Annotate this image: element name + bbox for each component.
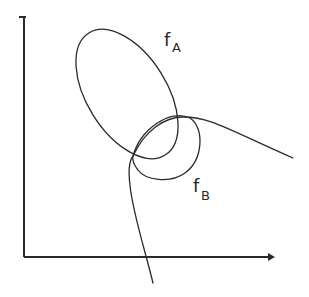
diagram-canvas: f A f B (0, 0, 309, 297)
label-fB-main: f (193, 175, 200, 196)
label-fA-sub: A (172, 40, 181, 55)
label-fB-sub: B (201, 188, 210, 203)
curve-fA (55, 12, 199, 177)
label-fA-main: f (164, 29, 171, 50)
x-axis-arrow-icon (268, 253, 275, 261)
curve-fB-loop (133, 116, 200, 180)
